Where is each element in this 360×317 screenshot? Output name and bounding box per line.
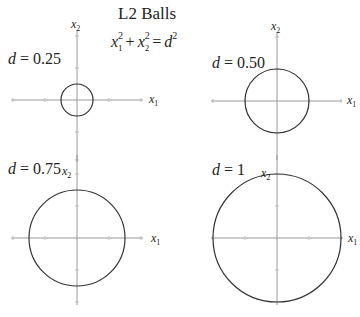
panel-3-x-label: x1 xyxy=(151,231,160,247)
panel-2-label: d = 0.50 xyxy=(212,54,265,72)
panel-4-label: d = 1 xyxy=(212,161,245,179)
panel-2-y-label: x2 xyxy=(271,19,280,35)
panel-1-x-label: x1 xyxy=(149,92,158,108)
panel-3-y-label: x2 xyxy=(62,164,71,180)
panel-2-axes xyxy=(211,32,342,160)
panel-4-y-label: x2 xyxy=(261,166,270,182)
panel-1-y-label: x2 xyxy=(71,17,80,33)
panel-1-label: d = 0.25 xyxy=(8,50,61,68)
panel-2-x-label: x1 xyxy=(347,93,356,109)
panel-3-label: d = 0.75 xyxy=(8,160,61,178)
panel-4-x-label: x1 xyxy=(348,231,357,247)
plots-canvas xyxy=(0,0,360,317)
